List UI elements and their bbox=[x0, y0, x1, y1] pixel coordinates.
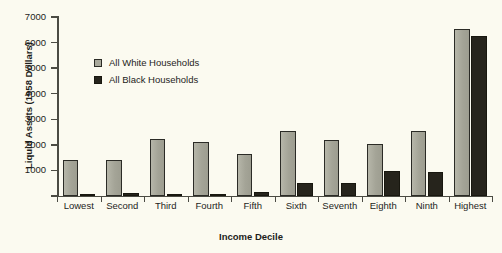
y-axis-tick-label: 5000 bbox=[0, 63, 46, 73]
bar-white-households bbox=[106, 160, 122, 196]
chart-legend: All White HouseholdsAll Black Households bbox=[94, 54, 199, 88]
bar-black-households bbox=[123, 193, 139, 196]
x-axis-label-eighth: Eighth bbox=[362, 200, 406, 211]
bar-group bbox=[144, 17, 188, 196]
bar-group bbox=[188, 17, 232, 196]
bar-group bbox=[231, 17, 275, 196]
white-square-icon bbox=[94, 59, 102, 67]
y-axis-title: Liquid Assets (1958 Dollars) bbox=[23, 6, 34, 206]
legend-item-label: All Black Households bbox=[109, 74, 198, 85]
x-axis-label-sixth: Sixth bbox=[275, 200, 319, 211]
y-axis-tick-label: 1000 bbox=[0, 165, 46, 175]
bar-black-households bbox=[341, 183, 357, 196]
x-axis-label-lowest: Lowest bbox=[57, 200, 101, 211]
x-axis-label-second: Second bbox=[101, 200, 145, 211]
bar-white-households bbox=[63, 160, 79, 196]
legend-item: All Black Households bbox=[94, 71, 199, 88]
y-axis-tick-label: 7000 bbox=[0, 12, 46, 22]
bar-group bbox=[362, 17, 406, 196]
bar-group bbox=[405, 17, 449, 196]
bar-white-households bbox=[280, 131, 296, 196]
bar-white-households bbox=[150, 139, 166, 196]
bar-white-households bbox=[367, 144, 383, 196]
black-square-icon bbox=[94, 76, 102, 84]
x-axis-label-seventh: Seventh bbox=[318, 200, 362, 211]
bar-black-households bbox=[210, 194, 226, 196]
legend-item-label: All White Households bbox=[109, 57, 199, 68]
bar-black-households bbox=[80, 194, 96, 196]
bar-white-households bbox=[237, 154, 253, 196]
bar-white-households bbox=[454, 29, 470, 196]
legend-item: All White Households bbox=[94, 54, 199, 71]
bar-black-households bbox=[254, 192, 270, 196]
y-axis-tick-label: 6000 bbox=[0, 38, 46, 48]
liquid-assets-bar-chart: Liquid Assets (1958 Dollars) 10002000300… bbox=[0, 0, 502, 253]
bar-group bbox=[101, 17, 145, 196]
x-axis-label-third: Third bbox=[144, 200, 188, 211]
y-axis-tick-label: 2000 bbox=[0, 140, 46, 150]
bar-black-households bbox=[384, 171, 400, 196]
y-axis-tick-label: 3000 bbox=[0, 114, 46, 124]
plot-area bbox=[57, 17, 492, 196]
x-axis-label-fourth: Fourth bbox=[188, 200, 232, 211]
bar-black-households bbox=[167, 194, 183, 196]
y-axis-tick-label: 4000 bbox=[0, 89, 46, 99]
bar-group bbox=[275, 17, 319, 196]
bar-white-households bbox=[411, 131, 427, 196]
bar-group bbox=[318, 17, 362, 196]
bar-group bbox=[449, 17, 493, 196]
bar-group bbox=[57, 17, 101, 196]
x-axis-tick bbox=[492, 196, 493, 202]
bar-white-households bbox=[324, 140, 340, 196]
x-axis-label-highest: Highest bbox=[449, 200, 493, 211]
x-axis-label-fifth: Fifth bbox=[231, 200, 275, 211]
bar-white-households bbox=[193, 142, 209, 196]
bar-black-households bbox=[297, 183, 313, 196]
x-axis-title: Income Decile bbox=[0, 231, 502, 242]
x-axis-label-ninth: Ninth bbox=[405, 200, 449, 211]
bar-black-households bbox=[428, 172, 444, 196]
bar-black-households bbox=[471, 36, 487, 196]
